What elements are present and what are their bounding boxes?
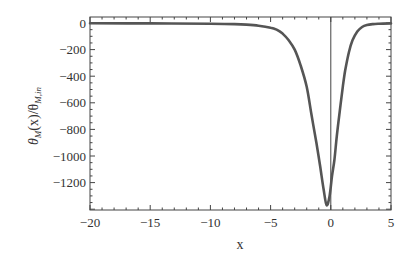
y-tick-labels: 0−200−400−600−800−1000−1200 [53,16,86,191]
x-tick-label: −5 [264,215,278,230]
x-tick-label: −20 [80,215,100,230]
y-tick-label: −400 [59,69,86,84]
x-tick-label: −10 [200,215,220,230]
y-axis-label: θM(x)/θM,in [26,86,43,145]
y-tick-label: −1000 [53,149,86,164]
y-tick-label: −200 [59,42,86,57]
x-axis-label: x [237,237,244,252]
plot-frame [90,17,391,210]
x-tick-labels: −20−15−10−505 [80,215,394,230]
y-tick-label: 0 [80,16,87,31]
y-tick-label: −1200 [53,175,86,190]
x-tick-label: −15 [140,215,160,230]
y-tick-label: −800 [59,122,86,137]
chart-svg: −20−15−10−505 0−200−400−600−800−1000−120… [0,0,414,264]
x-tick-label: 0 [328,215,335,230]
axis-ticks [90,17,391,210]
x-tick-label: 5 [388,215,395,230]
data-curve [90,23,391,205]
y-tick-label: −600 [59,95,86,110]
